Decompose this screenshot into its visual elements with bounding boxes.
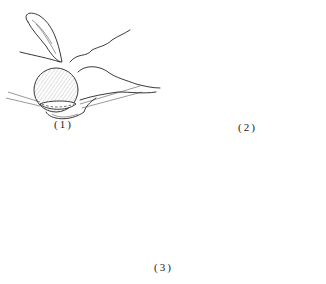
panel-1-drawing [6,13,160,119]
medical-illustration: (1) (2) (3) [0,0,326,284]
panel-1-label: (1) [54,118,73,130]
panel-2-label: (2) [238,121,257,133]
illustration-canvas [0,0,326,284]
panel-3-label: (3) [154,261,173,273]
